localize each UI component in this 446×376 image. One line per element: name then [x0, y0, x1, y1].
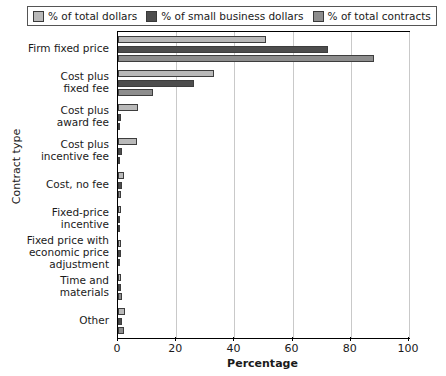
- bar-series-2: [118, 89, 153, 96]
- chart-container: % of total dollars% of small business do…: [0, 0, 446, 376]
- bar-series-1: [118, 318, 122, 325]
- x-axis-tick-label: 60: [272, 342, 312, 355]
- legend-label: % of small business dollars: [161, 10, 303, 22]
- x-axis-tick: [233, 337, 234, 341]
- bar-series-0: [118, 104, 138, 111]
- legend-item-0: % of total dollars: [33, 10, 137, 22]
- y-axis-label: Cost plus fixed fee: [61, 70, 109, 94]
- y-axis-label: Time and materials: [60, 274, 109, 298]
- x-axis-title: Percentage: [117, 357, 408, 370]
- bar-series-2: [118, 191, 121, 198]
- bar-series-0: [118, 308, 125, 315]
- bar-series-0: [118, 70, 214, 77]
- bar-series-0: [118, 172, 124, 179]
- x-axis-tick: [350, 337, 351, 341]
- y-axis-label: Fixed price with economic price adjustme…: [27, 234, 109, 270]
- bar-series-0: [118, 240, 121, 247]
- bar-series-0: [118, 138, 137, 145]
- bar-series-1: [118, 148, 122, 155]
- bar-series-1: [118, 284, 121, 291]
- plot-area: [117, 31, 410, 339]
- y-axis-label: Other: [79, 314, 109, 326]
- x-axis-tick-label: 20: [155, 342, 195, 355]
- legend-label: % of total dollars: [48, 10, 137, 22]
- bar-series-1: [118, 80, 194, 87]
- bar-series-2: [118, 225, 120, 232]
- bar-group: [118, 236, 409, 270]
- bar-series-1: [118, 250, 121, 257]
- grid-line: [409, 32, 410, 338]
- legend-item-2: % of total contracts: [313, 10, 431, 22]
- y-axis-label: Firm fixed price: [28, 42, 109, 54]
- legend-swatch-icon: [146, 11, 157, 22]
- bar-series-0: [118, 36, 266, 43]
- bar-groups: [118, 32, 409, 338]
- bar-series-2: [118, 123, 120, 130]
- bar-series-2: [118, 327, 124, 334]
- bar-group: [118, 202, 409, 236]
- bar-group: [118, 168, 409, 202]
- bar-group: [118, 100, 409, 134]
- bar-series-1: [118, 182, 122, 189]
- y-axis-label: Fixed-price incentive: [52, 206, 109, 230]
- legend-item-1: % of small business dollars: [146, 10, 303, 22]
- bar-series-0: [118, 206, 121, 213]
- bar-series-0: [118, 274, 121, 281]
- y-axis-category-labels: Firm fixed priceCost plus fixed feeCost …: [0, 31, 113, 337]
- bar-series-2: [118, 55, 374, 62]
- x-axis-tick-label: 80: [330, 342, 370, 355]
- x-axis-tick-label: 40: [213, 342, 253, 355]
- y-axis-label: Cost plus award fee: [57, 104, 109, 128]
- legend-swatch-icon: [33, 11, 44, 22]
- chart-legend: % of total dollars% of small business do…: [27, 6, 437, 26]
- x-axis-tick: [175, 337, 176, 341]
- bar-group: [118, 270, 409, 304]
- bar-series-1: [118, 216, 120, 223]
- bar-series-2: [118, 157, 120, 164]
- bar-group: [118, 32, 409, 66]
- x-axis-tick-label: 100: [388, 342, 428, 355]
- bar-series-1: [118, 114, 121, 121]
- x-axis-tick-label: 0: [97, 342, 137, 355]
- bar-series-2: [118, 293, 122, 300]
- x-axis-tick: [117, 337, 118, 341]
- x-axis-tick: [408, 337, 409, 341]
- bar-group: [118, 304, 409, 338]
- bar-series-2: [118, 259, 120, 266]
- x-axis-tick: [292, 337, 293, 341]
- legend-label: % of total contracts: [328, 10, 431, 22]
- bar-group: [118, 66, 409, 100]
- legend-swatch-icon: [313, 11, 324, 22]
- bar-series-1: [118, 46, 328, 53]
- bar-group: [118, 134, 409, 168]
- y-axis-label: Cost plus incentive fee: [41, 138, 109, 162]
- y-axis-label: Cost, no fee: [46, 178, 109, 190]
